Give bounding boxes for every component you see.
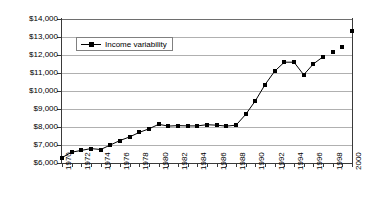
legend-line-marker-icon [81,40,101,49]
legend-label-income-variability: Income variability [105,40,167,49]
chart-legend[interactable]: Income variability [76,37,173,51]
series-line-income-variability [0,0,376,199]
income-variability-chart: $14,000$13,000$12,000$11,000$10,000$9,00… [0,0,376,199]
